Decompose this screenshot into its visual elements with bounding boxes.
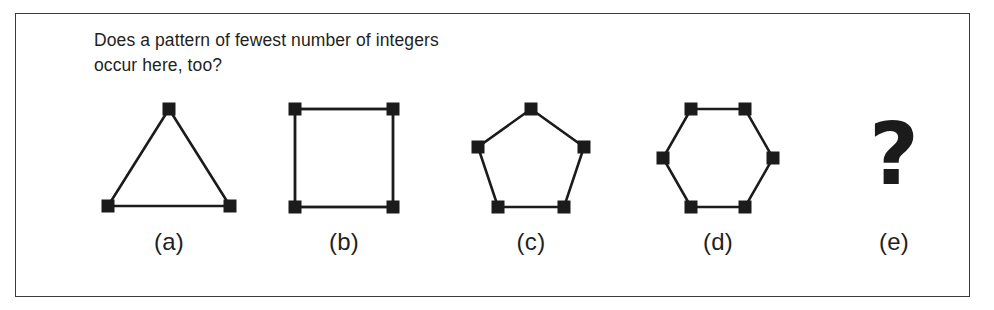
hexagon-icon [633, 88, 803, 228]
triangle-icon [84, 88, 254, 228]
figure-item-hexagon: (d) [633, 88, 803, 283]
figure-label-e: (e) [809, 228, 979, 256]
figure-label-b: (b) [259, 228, 429, 256]
figure-label-c: (c) [446, 228, 616, 256]
square-icon [259, 88, 429, 228]
figure-label-a: (a) [84, 228, 254, 256]
question-line-1: Does a pattern of fewest number of integ… [94, 28, 714, 53]
figure-item-triangle: (a) [84, 88, 254, 283]
figure-panel: Does a pattern of fewest number of integ… [15, 13, 970, 297]
question-line-2: occur here, too? [94, 53, 714, 78]
figure-item-pentagon: (c) [446, 88, 616, 283]
question-mark-glyph: ? [869, 111, 919, 197]
figure-item-square: (b) [259, 88, 429, 283]
figures-row: (a) (b) [16, 88, 971, 283]
figure-item-unknown: ? (e) [809, 88, 979, 283]
question-prompt: Does a pattern of fewest number of integ… [94, 28, 714, 78]
pentagon-icon [446, 88, 616, 228]
figure-label-d: (d) [633, 228, 803, 256]
question-mark-icon: ? [809, 88, 979, 228]
